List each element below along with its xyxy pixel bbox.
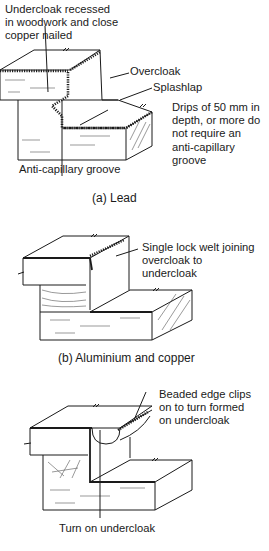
figure-c-drawing xyxy=(0,0,269,551)
beaded-edge-label: Beaded edge clips on to turn formed on u… xyxy=(159,388,251,428)
turn-on-undercloak-label: Turn on undercloak xyxy=(59,522,155,535)
